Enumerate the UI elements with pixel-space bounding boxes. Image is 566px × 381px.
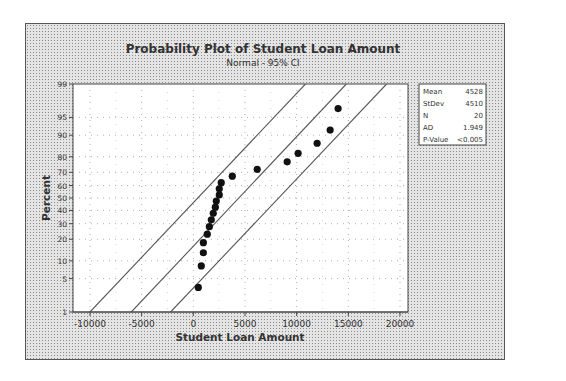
chart-title: Probability Plot of Student Loan Amount (126, 42, 401, 56)
y-tick-label: 5 (62, 275, 67, 284)
y-axis-label: Percent (40, 175, 52, 221)
y-tick-label: 90 (57, 131, 67, 140)
data-point (254, 166, 261, 173)
chart-subtitle: Normal - 95% CI (226, 58, 299, 68)
stat-value: 4510 (465, 100, 483, 108)
data-point (327, 127, 334, 134)
data-point (198, 262, 205, 269)
data-point (208, 216, 215, 223)
x-tick-label: 15000 (334, 319, 363, 329)
y-tick-label: 80 (57, 153, 67, 162)
data-point (204, 231, 211, 238)
data-point (314, 140, 321, 147)
x-tick-label: 10000 (282, 319, 311, 329)
stat-value: 1.949 (463, 124, 483, 132)
probability-plot: Probability Plot of Student Loan Amount … (0, 0, 566, 381)
x-tick-label: 5000 (234, 319, 257, 329)
stat-value: 4528 (465, 88, 483, 96)
plot-area (73, 84, 408, 312)
x-axis-ticks: -10000-500005000100001500020000 (73, 312, 415, 329)
y-tick-label: 1 (62, 308, 67, 317)
data-point (284, 158, 291, 165)
data-point (295, 150, 302, 157)
stat-value: <0.005 (457, 136, 483, 144)
data-point (212, 204, 219, 211)
data-point (335, 105, 342, 112)
data-point (218, 179, 225, 186)
stat-label: AD (423, 124, 433, 132)
y-tick-label: 50 (57, 194, 67, 203)
y-tick-label: 95 (57, 113, 67, 122)
x-tick-label: -10000 (74, 319, 106, 329)
data-point (200, 249, 207, 256)
stat-label: P-Value (423, 136, 448, 144)
y-tick-label: 20 (57, 235, 67, 244)
data-point (210, 210, 217, 217)
x-axis-label: Student Loan Amount (175, 331, 304, 343)
y-tick-label: 60 (57, 182, 67, 191)
data-point (213, 197, 220, 204)
data-point (229, 173, 236, 180)
stat-label: Mean (423, 88, 442, 96)
data-point (200, 239, 207, 246)
y-axis-ticks: 151020304050607080909599 (57, 80, 73, 317)
x-tick-label: 0 (190, 319, 196, 329)
y-tick-label: 30 (57, 220, 67, 229)
x-tick-label: -5000 (129, 319, 155, 329)
y-tick-label: 10 (57, 257, 67, 266)
stat-value: 20 (474, 112, 483, 120)
data-point (195, 284, 202, 291)
data-point (206, 223, 213, 230)
stat-label: StDev (423, 100, 444, 108)
stat-label: N (423, 112, 428, 120)
x-tick-label: 20000 (386, 319, 415, 329)
data-point (216, 185, 223, 192)
stats-legend: Mean4528StDev4510N20AD1.949P-Value<0.005 (419, 84, 486, 145)
y-tick-label: 70 (57, 168, 67, 177)
y-tick-label: 40 (57, 206, 67, 215)
y-tick-label: 99 (57, 80, 67, 89)
